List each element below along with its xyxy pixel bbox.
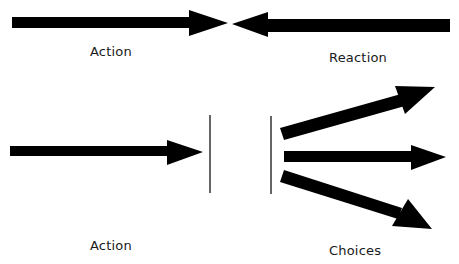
action-arrow-right-icon xyxy=(12,10,228,36)
top-action-label: Action xyxy=(90,44,132,59)
choice-arrow-up-icon xyxy=(280,86,435,140)
choice-arrow-down-icon xyxy=(280,170,432,229)
reaction-arrow-left-icon xyxy=(232,12,450,37)
diagram-canvas xyxy=(0,0,459,264)
bottom-choices-label: Choices xyxy=(329,243,381,258)
top-reaction-label: Reaction xyxy=(329,50,387,65)
action-arrow-right-bottom-icon xyxy=(10,140,203,165)
bottom-action-label: Action xyxy=(90,238,132,253)
choice-arrow-straight-icon xyxy=(284,145,446,170)
action-reaction-choices-diagram: Action Reaction Action Choices xyxy=(0,0,459,264)
